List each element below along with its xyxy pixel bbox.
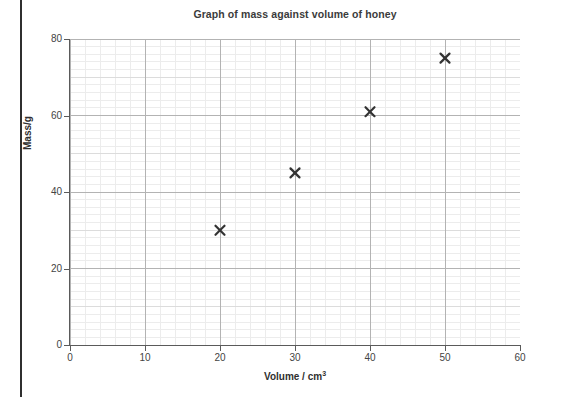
plot-area — [70, 39, 520, 345]
data-point-marker — [216, 226, 225, 235]
x-tick-label: 30 — [275, 353, 315, 363]
data-point-marker — [366, 107, 375, 116]
y-axis-line — [69, 39, 70, 346]
x-tick-mark — [220, 346, 221, 351]
y-tick-label: 0 — [22, 340, 62, 350]
x-tick-label: 20 — [200, 353, 240, 363]
y-tick-mark — [64, 39, 69, 40]
x-tick-mark — [295, 346, 296, 351]
x-axis-label-text: Volume / cm — [264, 371, 322, 382]
x-tick-label: 60 — [500, 353, 540, 363]
x-tick-label: 10 — [125, 353, 165, 363]
x-tick-mark — [370, 346, 371, 351]
y-tick-mark — [64, 269, 69, 270]
x-tick-label: 50 — [425, 353, 465, 363]
y-tick-mark — [64, 345, 69, 346]
x-tick-mark — [520, 346, 521, 351]
y-tick-mark — [64, 116, 69, 117]
chart-title: Graph of mass against volume of honey — [70, 8, 520, 20]
x-axis-label: Volume / cm3 — [70, 371, 520, 382]
y-tick-label: 40 — [22, 187, 62, 197]
y-tick-label: 20 — [22, 264, 62, 274]
x-tick-mark — [145, 346, 146, 351]
x-tick-label: 0 — [50, 353, 90, 363]
x-tick-mark — [70, 346, 71, 351]
data-points-layer — [70, 39, 520, 345]
data-point-marker — [441, 54, 450, 63]
y-tick-mark — [64, 192, 69, 193]
y-axis-label: Mass/g — [22, 116, 33, 150]
y-tick-label: 80 — [22, 34, 62, 44]
scatter-chart-figure: Graph of mass against volume of honey 02… — [0, 0, 563, 397]
x-tick-label: 40 — [350, 353, 390, 363]
x-tick-mark — [445, 346, 446, 351]
data-point-marker — [291, 168, 300, 177]
x-axis-label-superscript: 3 — [322, 370, 326, 377]
